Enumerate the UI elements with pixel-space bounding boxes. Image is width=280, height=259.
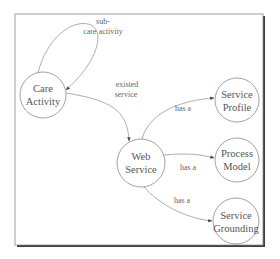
edge-label-service: service bbox=[115, 90, 138, 99]
edge-label-sub: sub- bbox=[96, 17, 110, 26]
node-service-profile: Service Profile bbox=[215, 78, 259, 122]
node-circle bbox=[215, 138, 259, 182]
edge-label-existed: existed bbox=[116, 80, 139, 89]
node-circle bbox=[20, 72, 66, 118]
diagram-canvas: sub- care activity existed service has a… bbox=[0, 0, 280, 259]
node-label: Web bbox=[132, 151, 151, 162]
node-service-grounding: Service Grounding bbox=[213, 198, 259, 244]
edge-label-has-a-grounding: has a bbox=[174, 196, 191, 205]
node-label: Service bbox=[221, 89, 253, 100]
node-web-service: Web Service bbox=[117, 139, 165, 187]
node-label: Care bbox=[33, 83, 53, 94]
node-circle bbox=[215, 78, 259, 122]
node-care-activity: Care Activity bbox=[20, 72, 66, 118]
node-label: Profile bbox=[223, 102, 252, 113]
edge-label-care-activity: care activity bbox=[83, 27, 122, 36]
edge-label-has-a-model: has a bbox=[180, 163, 197, 172]
node-circle bbox=[117, 139, 165, 187]
node-label: Service bbox=[125, 164, 157, 175]
node-label: Process bbox=[221, 148, 253, 159]
node-label: Activity bbox=[26, 96, 61, 107]
node-circle bbox=[213, 198, 259, 244]
node-label: Service bbox=[220, 210, 252, 221]
node-label: Model bbox=[223, 161, 250, 172]
edge-label-has-a-profile: has a bbox=[175, 104, 192, 113]
node-label: Grounding bbox=[213, 223, 259, 234]
node-process-model: Process Model bbox=[215, 138, 259, 182]
